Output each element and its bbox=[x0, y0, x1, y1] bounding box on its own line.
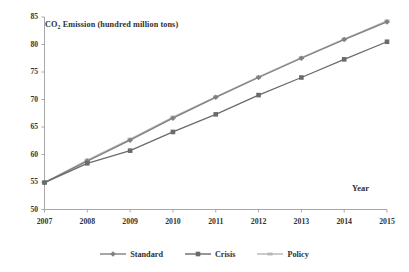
series-policy bbox=[42, 19, 390, 184]
series-line-standard bbox=[45, 22, 388, 183]
legend-label: Crisis bbox=[215, 250, 235, 259]
legend-label: Standard bbox=[130, 250, 163, 259]
data-series-group bbox=[42, 19, 390, 185]
x-axis-tick-label: 2011 bbox=[199, 217, 233, 226]
x-axis-tick-label: 2014 bbox=[327, 217, 361, 226]
series-standard bbox=[42, 19, 390, 185]
y-axis-tick-label: 80 bbox=[22, 40, 38, 49]
y-axis-tick-label: 65 bbox=[22, 122, 38, 131]
chart-title: CO2 Emission (hundred million tons) bbox=[45, 20, 178, 29]
data-point-marker-diamond bbox=[110, 251, 116, 257]
y-axis-tick-label: 70 bbox=[22, 95, 38, 104]
data-point-marker-square bbox=[342, 57, 347, 62]
x-axis-tick-label: 2009 bbox=[113, 217, 147, 226]
data-point-marker-square bbox=[299, 75, 304, 80]
data-point-marker-square bbox=[128, 148, 133, 153]
chart-legend: StandardCrisisPolicy bbox=[0, 244, 409, 264]
y-axis-tick-label: 55 bbox=[22, 177, 38, 186]
legend-swatch-crisis bbox=[185, 249, 211, 259]
y-axis-tick-label: 75 bbox=[22, 67, 38, 76]
plot-area bbox=[0, 0, 409, 272]
legend-item-standard[interactable]: Standard bbox=[100, 249, 163, 259]
co2-emission-line-chart: CO2 Emission (hundred million tons) Year… bbox=[0, 0, 409, 272]
y-axis-tick-label: 50 bbox=[22, 205, 38, 214]
legend-item-crisis[interactable]: Crisis bbox=[185, 249, 235, 259]
chart-title-prefix: CO bbox=[45, 20, 57, 29]
x-axis-tick-label: 2012 bbox=[242, 217, 276, 226]
data-point-marker-square bbox=[196, 252, 201, 257]
chart-title-subscript: 2 bbox=[57, 24, 60, 30]
data-point-marker-square bbox=[171, 130, 176, 135]
chart-title-suffix: Emission (hundred million tons) bbox=[61, 20, 179, 29]
data-point-marker-dash bbox=[268, 253, 273, 256]
legend-swatch-standard bbox=[100, 249, 126, 259]
legend-item-policy[interactable]: Policy bbox=[257, 249, 308, 259]
chart-canvas bbox=[0, 0, 409, 272]
legend-label: Policy bbox=[287, 250, 308, 259]
x-axis-title: Year bbox=[352, 184, 369, 193]
x-axis-tick-label: 2015 bbox=[370, 217, 404, 226]
legend-swatch-policy bbox=[257, 249, 283, 259]
x-axis-tick-label: 2008 bbox=[70, 217, 104, 226]
y-axis-tick-label: 60 bbox=[22, 150, 38, 159]
series-line-policy bbox=[45, 21, 388, 183]
data-point-marker-square bbox=[85, 161, 90, 166]
series-crisis bbox=[42, 39, 389, 184]
y-axis-tick-label: 85 bbox=[22, 12, 38, 21]
x-axis-tick-label: 2013 bbox=[284, 217, 318, 226]
x-axis-tick-label: 2010 bbox=[156, 217, 190, 226]
data-point-marker-square bbox=[213, 112, 218, 117]
data-point-marker-square bbox=[385, 39, 390, 44]
data-point-marker-square bbox=[42, 180, 47, 185]
x-axis-tick-label: 2007 bbox=[28, 217, 62, 226]
data-point-marker-square bbox=[256, 93, 261, 98]
